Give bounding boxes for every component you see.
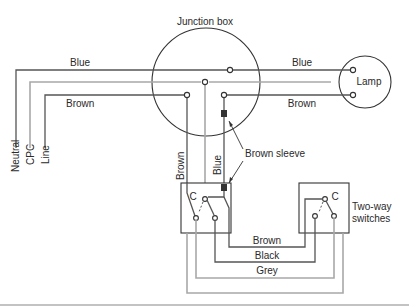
jb-line-terminal [184, 92, 189, 97]
left-switch-l2-terminal [213, 216, 218, 221]
lamp-brown-label: Brown [288, 98, 316, 109]
lamp-line-terminal [350, 92, 355, 97]
drop-blue-label: Blue [212, 155, 223, 175]
drop-brown-label: Brown [175, 152, 186, 180]
switches-label-1: Two-way [352, 201, 391, 212]
right-switch-l1-terminal [313, 214, 318, 219]
right-switch-box [299, 183, 349, 233]
strapper-grey-label: Grey [256, 265, 278, 276]
jb-switchline-terminal [221, 92, 226, 97]
cpc-label: CPC [25, 144, 36, 165]
arrow-head-icon [229, 121, 233, 127]
supply-brown-label: Brown [66, 98, 94, 109]
junction-box-label: Junction box [177, 16, 233, 27]
right-switch-alt-path [319, 202, 323, 212]
line-label: Line [40, 145, 51, 164]
supply-blue-label: Blue [70, 57, 90, 68]
brown-sleeve-upper [221, 110, 227, 117]
strapper-brown-label: Brown [253, 235, 281, 246]
right-switch-blade [326, 201, 333, 214]
lamp-label: Lamp [356, 76, 381, 87]
left-switch-alt-path [199, 202, 203, 212]
jb-cpc-terminal [202, 79, 207, 84]
switches-label-2: switches [352, 213, 390, 224]
right-switch-common-label: C [331, 191, 338, 202]
strapper-black-label: Black [255, 250, 280, 261]
left-switch-common-feed [208, 191, 224, 197]
cpc-wire [30, 82, 201, 148]
left-switch-l1-terminal [194, 216, 199, 221]
left-switch-return [224, 197, 229, 233]
lamp-neutral-terminal [350, 67, 355, 72]
left-switch-blade [207, 200, 214, 215]
neutral-label: Neutral [10, 140, 21, 172]
lamp-blue-label: Blue [292, 57, 312, 68]
left-switch-common-label: C [189, 191, 196, 202]
right-switch-common-terminal [323, 197, 328, 202]
right-switch-l2-terminal [332, 214, 337, 219]
brown-sleeve-label: Brown sleeve [245, 148, 305, 159]
brown-sleeve-lower [221, 184, 227, 191]
wiring-diagram: Junction box Lamp Blue Brown Neutral CPC… [0, 0, 409, 307]
jb-neutral-terminal [227, 67, 232, 72]
